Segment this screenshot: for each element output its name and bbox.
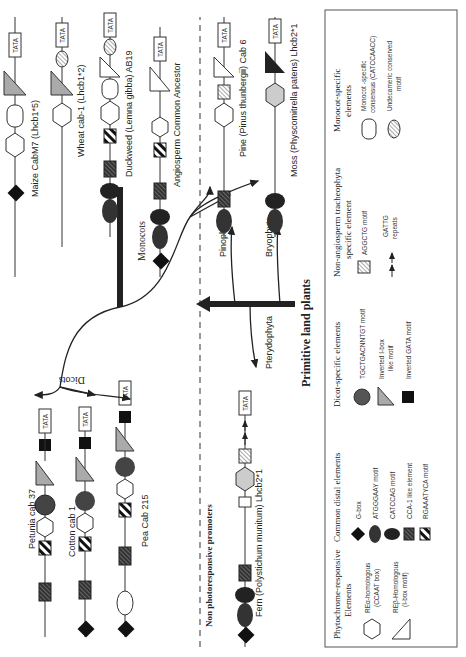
svg-text:specific element: specific element <box>343 200 353 259</box>
svg-text:RGAAATYCA motif: RGAAATYCA motif <box>422 464 429 519</box>
fern-label: Fern (Polystichum munitum) Lhcb2*1 <box>254 469 264 617</box>
cca1-element-icon <box>154 183 166 199</box>
inverted-ibox-triangle-icon <box>36 461 54 485</box>
svg-text:TATA: TATA <box>42 413 49 429</box>
pea-label: Pea Cab 215 <box>140 494 150 547</box>
cca1-element-icon <box>104 161 116 177</box>
tgctgac-circle-icon <box>115 457 135 477</box>
rea-hexagon-icon <box>117 479 133 499</box>
unknown-oval-icon <box>117 591 133 615</box>
wheat-label: Wheat cab-1 (Lhcb1*2) <box>76 64 86 157</box>
open-box-icon <box>239 497 251 507</box>
svg-text:REα-homologous: REα-homologous <box>364 562 372 613</box>
legend-cca1-icon <box>404 528 414 540</box>
rea-hexagon-icon <box>77 513 93 533</box>
monocot-consensus-icon <box>7 105 23 127</box>
monocots-label: Monocots <box>136 221 147 261</box>
promoter-maize: TATA Maize CabM7 (Lhcb1*5) <box>4 17 40 277</box>
maize-label: Maize CabM7 (Lhcb1*5) <box>30 100 40 197</box>
svg-text:AGGCTG motif: AGGCTG motif <box>361 211 368 255</box>
svg-text:CATCCAG motif: CATCCAG motif <box>389 472 396 519</box>
svg-text:G-box: G-box <box>355 501 362 519</box>
pterydophyta-label: Pterydophyta <box>264 316 274 369</box>
svg-text:Monocot -specific: Monocot -specific <box>360 60 368 111</box>
svg-text:ATGGGAAY motif: ATGGGAAY motif <box>372 468 379 519</box>
cca1-element-icon <box>79 581 91 599</box>
legend-aggctg-icon <box>358 261 370 273</box>
svg-text:Phytochrome-responsive: Phytochrome-responsive <box>332 550 342 639</box>
rea-hexagon-icon <box>152 117 168 137</box>
catccag-icon <box>150 209 170 225</box>
legend-catccag-icon <box>384 528 400 540</box>
svg-text:GATTG: GATTG <box>382 215 389 237</box>
inverted-gata-icon <box>119 411 131 423</box>
pine-label: Pine (Pinus thunbergii) Cab 6 <box>238 39 248 157</box>
svg-text:TGCTGACNNTGT motif: TGCTGACNNTGT motif <box>359 309 366 379</box>
legend-monocot-consensus-icon <box>362 119 376 139</box>
up-arrow-icon <box>196 296 210 312</box>
atgggaay-icon <box>102 199 118 223</box>
hexagon-gray-icon <box>266 83 284 107</box>
legend-rea-icon <box>364 619 380 639</box>
atgggaay-icon <box>267 209 283 233</box>
promoter-moss: TATA Moss (Physcomitrella patens) Lhcb2*… <box>265 17 299 237</box>
gbox-icon <box>78 621 95 638</box>
svg-text:consensus (CATCCAACC): consensus (CATCCAACC) <box>369 36 377 113</box>
gbox-icon <box>238 627 255 644</box>
svg-text:TATA: TATA <box>272 23 279 39</box>
rea-hexagon-icon <box>53 103 71 127</box>
tgctgac-circle-icon <box>75 491 95 511</box>
promoter-petunia: TATA Petunia cab 37 <box>27 409 55 637</box>
non-photoresponsive-label: Non photoresponsive promoters <box>204 504 214 627</box>
catccag-icon <box>235 587 255 603</box>
svg-text:REβ-Homologous: REβ-Homologous <box>392 561 400 613</box>
atgggaay-icon <box>237 603 253 627</box>
promoter-wheat: TATA Wheat cab-1 (Lhcb1*2) <box>51 17 86 247</box>
legend-undecameric-icon <box>388 120 400 138</box>
cca1-element-icon <box>218 191 230 207</box>
svg-text:Monocot-specific: Monocot-specific <box>332 69 342 132</box>
svg-text:Inverted GATA motif: Inverted GATA motif <box>405 321 412 379</box>
svg-text:Elements: Elements <box>343 583 353 617</box>
atgggaay-icon <box>152 225 168 249</box>
rea-hexagon-icon <box>37 517 53 537</box>
svg-text:TATA: TATA <box>107 17 114 33</box>
promoter-pine: TATA Pine (Pinus thunbergii) Cab 6 <box>214 17 248 237</box>
duckweed-label: Duckweed (Lemna gibba) AB19 <box>124 50 134 177</box>
rgaaatyca-icon <box>39 541 51 555</box>
ancestor-label: Angiosperm Common Ancestor <box>172 62 182 187</box>
svg-text:CCA-1 like element: CCA-1 like element <box>406 463 413 519</box>
svg-text:motif: motif <box>395 77 402 91</box>
svg-text:TATA: TATA <box>242 395 249 411</box>
hexagon-gray-icon <box>236 467 254 491</box>
svg-text:like motif: like motif <box>387 345 394 371</box>
svg-text:Dicot-specific elements: Dicot-specific elements <box>332 321 342 407</box>
rgaaatyca-icon <box>79 537 91 551</box>
svg-text:TATA: TATA <box>221 27 228 43</box>
cca1-element-icon <box>39 583 51 601</box>
promoter-fern: TATA Fern (Polystichum munitum) Lhcb2*1 <box>235 391 264 647</box>
angiosperm-trunk <box>117 187 123 307</box>
rea-hexagon-icon <box>101 101 119 125</box>
legend-inverted-gata-icon <box>402 391 414 403</box>
gbox-icon <box>8 185 25 202</box>
svg-text:TATA: TATA <box>12 37 19 53</box>
rea-hexagon-icon <box>215 103 233 127</box>
catccag-icon <box>265 193 285 209</box>
svg-text:elements: elements <box>343 85 353 117</box>
svg-text:TATA: TATA <box>59 27 66 43</box>
gbox-icon <box>118 621 135 638</box>
svg-text:Undecameric conserved: Undecameric conserved <box>386 41 393 111</box>
undecameric-icon <box>56 51 68 67</box>
diagram-rotated: TATA Petunia cab 37 TATA Cotton cab 1 TA… <box>0 0 466 657</box>
svg-text:Inverted I-box: Inverted I-box <box>378 339 385 379</box>
legend-tgctgac-icon <box>354 389 370 405</box>
promoter-pea: TATA Pea Cab 215 <box>115 381 150 637</box>
svg-text:Non-angiosperm tracheophyta: Non-angiosperm tracheophyta <box>332 168 342 277</box>
undecameric-icon <box>104 39 116 55</box>
promoter-ancestor: TATA Angiosperm Common Ancestor <box>150 27 182 277</box>
svg-text:repeats: repeats <box>391 217 399 239</box>
svg-text:(I-box motif): (I-box motif) <box>401 572 409 607</box>
legend-rgaaatyca-icon <box>420 528 430 540</box>
promoter-cotton: TATA Cotton cab 1 <box>67 407 95 637</box>
